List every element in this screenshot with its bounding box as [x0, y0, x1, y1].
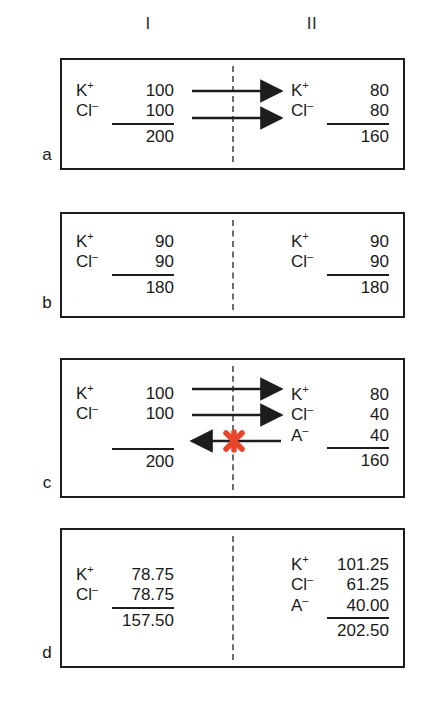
ion-concentration: 100 [112, 101, 174, 123]
ion-row: Cl– 90 [291, 252, 389, 274]
ion-row: Cl– 100 [76, 404, 174, 424]
column-header-compartment-1: I [128, 14, 168, 34]
charge-superscript: + [87, 231, 93, 243]
ion-concentration: 40.00 [327, 596, 389, 618]
ion-row: K+ 90 [76, 232, 174, 252]
membrane-divider-d [232, 536, 234, 660]
total-spacer [76, 608, 112, 631]
panel-a-compartment-1: K+ 100 Cl– 100 200 [76, 60, 174, 168]
charge-superscript: + [302, 384, 308, 396]
charge-superscript: – [302, 424, 308, 436]
donnan-equilibrium-figure: I II K+ 100 Cl– 100 200 [0, 0, 425, 701]
ion-row: K+ 80 [291, 81, 389, 101]
ion-row: K+ 80 [291, 385, 389, 405]
ion-concentration: 90 [327, 232, 389, 252]
panel-b-compartment-2: K+ 90 Cl– 90 180 [291, 214, 389, 316]
total-concentration: 180 [112, 275, 174, 298]
charge-superscript: + [87, 383, 93, 395]
ion-concentration: 90 [327, 252, 389, 274]
ion-label: Cl– [291, 101, 327, 123]
charge-superscript: – [307, 404, 313, 416]
ion-concentration: 90 [112, 252, 174, 274]
ion-row: A– 40.00 [291, 596, 389, 618]
ion-label: Cl– [291, 405, 327, 425]
ion-concentration: 100 [112, 384, 174, 404]
panel-b: K+ 90 Cl– 90 180 K+ 90 [60, 212, 405, 318]
charge-superscript: – [302, 594, 308, 606]
ion-concentration: 80 [327, 101, 389, 123]
ion-row: Cl– 61.25 [291, 575, 389, 595]
ion-label: K+ [76, 81, 112, 101]
panel-a: K+ 100 Cl– 100 200 K+ 80 [60, 58, 405, 170]
ion-concentration: 100 [112, 81, 174, 101]
panel-c-compartment-1: K+ 100 Cl– 100 200 [76, 360, 174, 496]
panel-label-d: d [38, 643, 56, 663]
total-concentration: 180 [327, 275, 389, 298]
ion-concentration: 78.75 [112, 565, 174, 585]
ion-table: K+ 100 Cl– 100 200 [76, 81, 174, 146]
charge-superscript: + [302, 231, 308, 243]
total-concentration: 200 [112, 449, 174, 472]
total-concentration: 160 [327, 448, 389, 471]
ion-concentration-empty [112, 425, 174, 449]
panel-label-c: c [38, 473, 56, 493]
blocked-x-icon [226, 432, 242, 450]
ion-concentration: 61.25 [327, 575, 389, 595]
ion-label: Cl– [76, 585, 112, 607]
total-concentration: 160 [327, 124, 389, 147]
ion-concentration: 101.25 [327, 555, 389, 575]
total-spacer [291, 618, 327, 641]
charge-superscript: – [307, 251, 313, 263]
ion-label: A– [291, 426, 327, 448]
charge-superscript: – [307, 574, 313, 586]
panel-b-compartment-1: K+ 90 Cl– 90 180 [76, 214, 174, 316]
panel-d-compartment-1: K+ 78.75 Cl– 78.75 157.50 [76, 530, 174, 666]
ion-label: K+ [291, 385, 327, 405]
panel-a-compartment-2: K+ 80 Cl– 80 160 [291, 60, 389, 168]
ion-label: Cl– [76, 101, 112, 123]
ion-concentration: 90 [112, 232, 174, 252]
total-spacer [291, 124, 327, 147]
ion-table: K+ 78.75 Cl– 78.75 157.50 [76, 565, 174, 630]
ion-concentration: 80 [327, 385, 389, 405]
ion-row-empty [76, 425, 174, 449]
ion-label-empty [76, 425, 112, 449]
ion-label: K+ [76, 565, 112, 585]
ion-label: K+ [291, 555, 327, 575]
charge-superscript: + [87, 80, 93, 92]
ion-table: K+ 100 Cl– 100 200 [76, 384, 174, 471]
total-row: 160 [291, 124, 389, 147]
ion-label: Cl– [76, 252, 112, 274]
ion-label: K+ [291, 81, 327, 101]
charge-superscript: – [307, 100, 313, 112]
ion-concentration: 40 [327, 405, 389, 425]
total-row: 200 [76, 449, 174, 472]
total-row: 200 [76, 124, 174, 147]
ion-label: K+ [76, 384, 112, 404]
total-spacer [76, 124, 112, 147]
ion-concentration: 80 [327, 81, 389, 101]
ion-concentration: 100 [112, 404, 174, 424]
total-spacer [76, 449, 112, 472]
total-spacer [291, 448, 327, 471]
column-headers: I II [60, 14, 405, 44]
panel-c: K+ 100 Cl– 100 200 K [60, 358, 405, 498]
ion-table: K+ 80 Cl– 40 A– 40 160 [291, 385, 389, 470]
ion-table: K+ 90 Cl– 90 180 [76, 232, 174, 297]
total-row: 180 [76, 275, 174, 298]
total-spacer [76, 275, 112, 298]
ion-label: K+ [76, 232, 112, 252]
ion-row: Cl– 80 [291, 101, 389, 123]
ion-table: K+ 90 Cl– 90 180 [291, 232, 389, 297]
ion-row: K+ 90 [291, 232, 389, 252]
ion-row: K+ 100 [76, 81, 174, 101]
total-row: 180 [291, 275, 389, 298]
panel-label-b: b [38, 293, 56, 313]
ion-row: Cl– 78.75 [76, 585, 174, 607]
panel-label-a: a [38, 145, 56, 165]
ion-concentration: 40 [327, 426, 389, 448]
ion-row: Cl– 40 [291, 405, 389, 425]
charge-superscript: – [92, 100, 98, 112]
ion-row: Cl– 90 [76, 252, 174, 274]
ion-concentration: 78.75 [112, 585, 174, 607]
